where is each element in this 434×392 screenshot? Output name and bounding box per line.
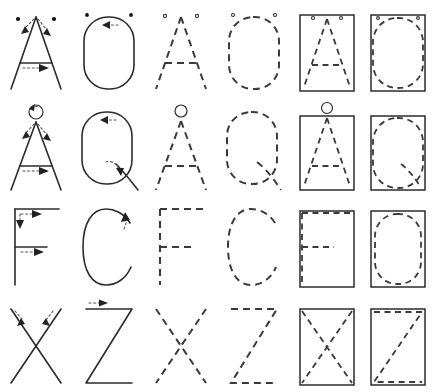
start-dot-right — [129, 13, 133, 17]
cell-r4c4[interactable] — [217, 294, 291, 392]
letter-box-frame — [300, 211, 354, 287]
Z-stroke — [231, 309, 277, 383]
letter-F-boxed — [292, 199, 362, 291]
letter-Z-solid-arrows — [74, 297, 144, 389]
letter-Q-boxed — [363, 98, 433, 196]
cell-r3c2[interactable] — [72, 196, 146, 294]
letter-Z-boxed — [363, 297, 433, 389]
arrow-down-right — [42, 318, 50, 326]
letter-A-ring-boxed — [292, 98, 362, 196]
start-dot-right — [274, 14, 277, 17]
letter-box-frame — [300, 116, 354, 190]
arrow-down-left — [22, 131, 30, 139]
cell-r4c6[interactable] — [363, 294, 434, 392]
letter-O-boxed-row3 — [363, 199, 433, 291]
cell-r3c4[interactable] — [217, 196, 291, 294]
letter-Q-solid-arrows — [72, 98, 146, 196]
start-dot-right — [417, 17, 420, 20]
Q-tail — [257, 162, 281, 190]
letter-A-dashed — [146, 3, 216, 95]
ring-diacritic — [321, 103, 332, 114]
cell-r4c5[interactable] — [291, 294, 363, 392]
cell-r2c3[interactable] — [146, 98, 218, 196]
letter-X-dashed — [146, 297, 216, 389]
cell-r1c4[interactable] — [217, 0, 291, 98]
letter-grid — [0, 0, 434, 392]
cell-r4c2[interactable] — [72, 294, 146, 392]
letter-F-solid-arrows — [1, 199, 71, 291]
cell-r1c1[interactable] — [0, 0, 72, 98]
cell-r1c2[interactable] — [72, 0, 146, 98]
cell-r1c6[interactable] — [363, 0, 434, 98]
cell-r3c1[interactable] — [0, 196, 72, 294]
Z-stroke — [86, 309, 132, 383]
letter-C-solid-arrows — [74, 199, 144, 291]
worksheet-sheet — [0, 0, 434, 392]
arrow-right-topbar — [32, 210, 42, 218]
start-dot-left — [311, 17, 314, 20]
cell-r1c5[interactable] — [291, 0, 363, 98]
start-dot-left — [16, 17, 20, 21]
letter-X-solid-arrows — [1, 297, 71, 389]
cell-r1c3[interactable] — [146, 0, 218, 98]
cell-r3c5[interactable] — [291, 196, 363, 294]
start-dot-right — [52, 17, 56, 21]
letter-C-dashed — [219, 199, 289, 291]
arrow-right-crossbar — [39, 167, 49, 175]
cell-r4c1[interactable] — [0, 294, 72, 392]
arrow-down-stem — [16, 220, 24, 229]
cell-r4c3[interactable] — [146, 294, 218, 392]
letter-Z-dashed — [219, 297, 289, 389]
cell-r3c3[interactable] — [146, 196, 218, 294]
cell-r2c5[interactable] — [291, 98, 363, 196]
ring-diacritic — [175, 105, 187, 117]
letter-A-ring-dashed — [146, 98, 216, 196]
start-dot-left — [377, 17, 380, 20]
letter-O-boxed — [363, 3, 433, 95]
letter-X-boxed — [292, 297, 362, 389]
letter-A-ring-solid-arrows — [1, 98, 71, 196]
cell-r2c1[interactable] — [0, 98, 72, 196]
cell-r3c6[interactable] — [363, 196, 434, 294]
stroke-guide-x-right — [47, 311, 53, 319]
letter-A-boxed — [292, 3, 362, 95]
arrow-left-top — [100, 116, 108, 124]
letter-O-solid-arrows — [74, 3, 144, 95]
arrow-down-right — [43, 28, 51, 36]
cell-r2c6[interactable] — [363, 98, 434, 196]
Q-tail — [116, 164, 138, 190]
arrow-right-midbar — [34, 248, 44, 256]
letter-box-frame — [300, 15, 354, 91]
arrow-left-top — [102, 21, 110, 29]
cell-r2c2[interactable] — [72, 98, 146, 196]
arrow-down-left — [21, 26, 29, 34]
cell-r2c4[interactable] — [217, 98, 291, 196]
start-dot-left — [232, 14, 235, 17]
arrow-down-right — [43, 133, 51, 141]
start-dot-left — [85, 13, 89, 17]
C-stroke — [228, 209, 276, 285]
letter-F-dashed — [146, 199, 216, 291]
letter-O-dashed — [219, 3, 289, 95]
Z-stroke — [374, 312, 422, 382]
start-dot-left — [164, 14, 167, 17]
letter-A-solid-arrows — [1, 3, 71, 95]
start-dot-right — [339, 17, 342, 20]
start-dot-right — [196, 14, 199, 17]
arrow-right-crossbar — [39, 64, 49, 72]
arrow-right-topbar — [99, 300, 108, 307]
letter-Q-dashed — [217, 98, 291, 196]
